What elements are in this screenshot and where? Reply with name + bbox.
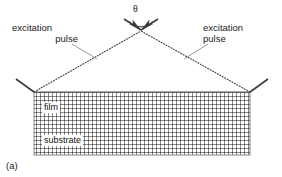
angle-arrowhead-left xyxy=(129,20,141,31)
ray-right-solid xyxy=(250,79,268,92)
label-excitation-pulse-left: excitation pulse xyxy=(12,22,78,44)
leader-line-left xyxy=(72,44,97,59)
label-layer-film: film xyxy=(42,102,60,113)
label-excitation-pulse-right: excitation pulse xyxy=(203,22,243,44)
angle-arrowhead-right xyxy=(141,20,153,31)
label-angle-theta: θ xyxy=(133,3,138,14)
ray-left-solid xyxy=(16,79,34,92)
excitation-left-line2: pulse xyxy=(12,33,78,44)
excitation-right-line2: pulse xyxy=(203,33,226,44)
label-layer-substrate: substrate xyxy=(42,135,83,146)
excitation-right-line1: excitation xyxy=(203,22,243,33)
excitation-left-line1: excitation xyxy=(12,22,52,33)
figure-transient-grating-setup: excitation pulse excitation pulse θ film… xyxy=(0,0,282,177)
label-panel-identifier: (a) xyxy=(6,160,18,171)
leader-line-right xyxy=(184,44,208,59)
